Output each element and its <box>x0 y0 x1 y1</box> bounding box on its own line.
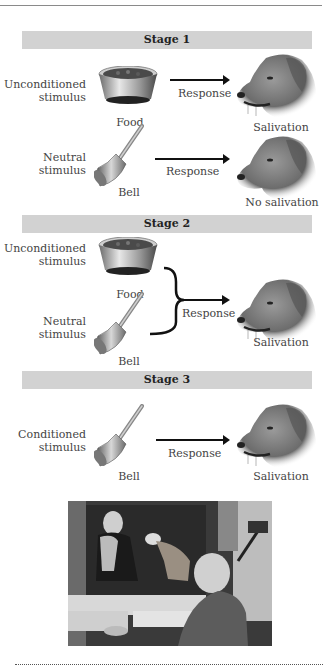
bell-caption: Bell <box>114 186 144 199</box>
label-line: stimulus <box>0 328 86 341</box>
label-line: stimulus <box>0 164 86 177</box>
label-line: Conditioned <box>0 428 86 441</box>
response-arrow <box>156 439 224 441</box>
unconditioned-stimulus-label: Unconditioned stimulus <box>0 78 86 104</box>
footer-dotted-rule <box>15 664 323 665</box>
unconditioned-stimulus-label: Unconditioned stimulus <box>0 242 86 268</box>
response-label: Response <box>168 447 221 460</box>
stage-3-header: Stage 3 <box>22 371 312 389</box>
response-arrow <box>170 79 224 81</box>
combining-bracket-arrow <box>150 260 230 340</box>
bell-icon <box>94 292 156 358</box>
page-header-rule <box>0 0 322 6</box>
dog-salivating-icon <box>236 402 320 472</box>
stage-2-header: Stage 2 <box>22 215 312 233</box>
salivation-caption: Salivation <box>246 121 316 134</box>
bell-icon <box>94 404 156 470</box>
neutral-stimulus-label: Neutral stimulus <box>0 315 86 341</box>
response-arrow <box>155 158 224 160</box>
dog-salivating-icon <box>236 52 320 122</box>
bell-caption: Bell <box>114 355 144 368</box>
response-label: Response <box>178 87 231 100</box>
label-line: stimulus <box>0 91 86 104</box>
dog-icon <box>236 134 320 204</box>
pavlov-lab-photo <box>68 501 272 646</box>
neutral-stimulus-label: Neutral stimulus <box>0 151 86 177</box>
label-line: Neutral <box>0 151 86 164</box>
label-line: Neutral <box>0 315 86 328</box>
stage-1-header: Stage 1 <box>22 31 312 49</box>
label-line: stimulus <box>0 255 86 268</box>
no-salivation-caption: No salivation <box>242 196 322 209</box>
response-label: Response <box>166 165 219 178</box>
label-line: Unconditioned <box>0 242 86 255</box>
response-label: Response <box>182 307 235 320</box>
conditioned-stimulus-label: Conditioned stimulus <box>0 428 86 454</box>
label-line: stimulus <box>0 441 86 454</box>
bell-icon <box>94 124 156 190</box>
label-line: Unconditioned <box>0 78 86 91</box>
salivation-caption: Salivation <box>246 336 316 349</box>
lab-photo-image <box>68 501 272 646</box>
food-bowl-icon <box>98 66 160 108</box>
bell-caption: Bell <box>114 470 144 483</box>
salivation-caption: Salivation <box>246 470 316 483</box>
